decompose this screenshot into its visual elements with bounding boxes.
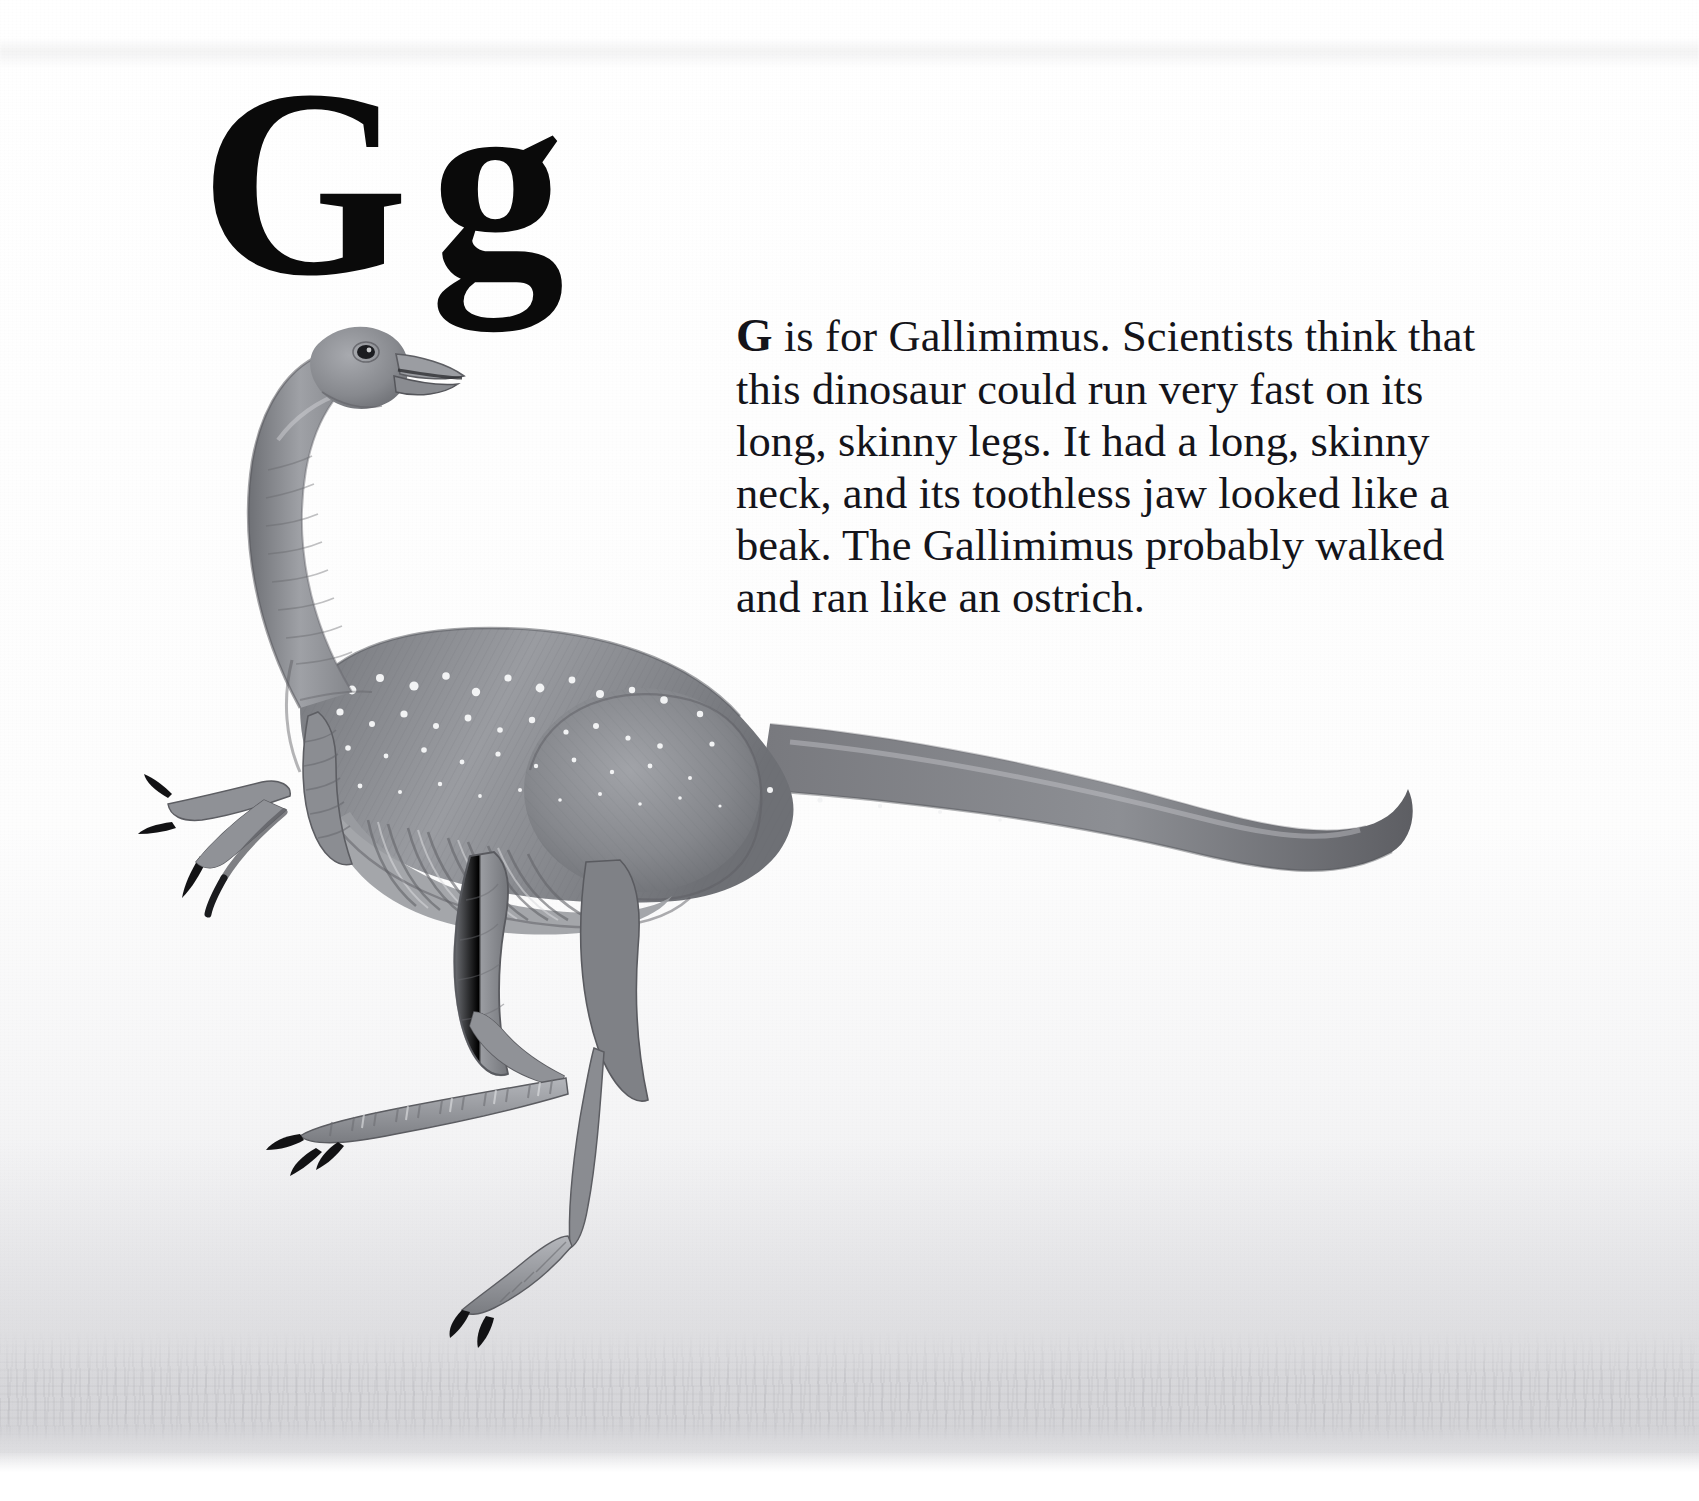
grass-texture <box>0 1331 1699 1441</box>
description-text-block: G is for Gallimimus. Scientists think th… <box>736 308 1488 623</box>
description-body: is for Gallimimus. Scientists think that… <box>736 311 1475 622</box>
description-paragraph: G is for Gallimimus. Scientists think th… <box>736 308 1488 623</box>
page-bottom-edge <box>0 1453 1699 1501</box>
letter-heading: Gg <box>200 60 562 307</box>
ground-haze <box>0 1141 1699 1501</box>
letter-lowercase-g: g <box>430 34 562 331</box>
lead-capital-g: G <box>736 309 773 361</box>
letter-uppercase-g: G <box>200 34 406 331</box>
book-page: Gg G is for Gallimimus. Scientists think… <box>0 0 1699 1501</box>
